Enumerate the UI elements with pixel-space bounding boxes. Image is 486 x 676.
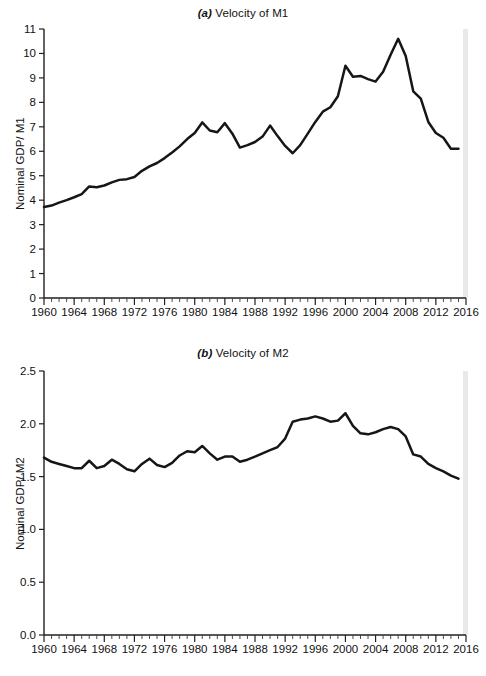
y-axis-tick-label: 2.5 bbox=[20, 365, 36, 377]
y-axis-tick-label: 9 bbox=[30, 72, 36, 84]
x-axis-tick-label: 1992 bbox=[272, 306, 298, 318]
y-axis-tick-label: 11 bbox=[24, 23, 36, 35]
x-axis-tick-label: 1984 bbox=[212, 643, 238, 655]
x-axis-tick-label: 2016 bbox=[453, 643, 479, 655]
x-axis-tick-label: 1988 bbox=[242, 643, 268, 655]
x-axis-tick-label: 1992 bbox=[272, 643, 298, 655]
x-axis-tick-label: 1972 bbox=[122, 306, 148, 318]
y-axis-tick-label: 7 bbox=[30, 121, 36, 133]
y-axis-tick-label: 1.0 bbox=[20, 523, 36, 535]
x-axis-tick-label: 1996 bbox=[302, 306, 328, 318]
y-axis-tick-label: 5 bbox=[30, 170, 36, 182]
x-axis-tick-label: 1968 bbox=[91, 643, 117, 655]
x-axis-tick-label: 1972 bbox=[122, 643, 148, 655]
plot-right-edge-shading bbox=[463, 371, 468, 635]
y-axis-tick-label: 0.0 bbox=[20, 629, 36, 641]
x-axis-tick-label: 1964 bbox=[61, 306, 87, 318]
data-series-line bbox=[44, 39, 458, 207]
chart-a-plot: 0123456789101119601964196819721976198019… bbox=[0, 0, 486, 340]
y-axis-tick-label: 1 bbox=[30, 268, 36, 280]
x-axis-tick-label: 2012 bbox=[423, 306, 449, 318]
y-axis-tick-label: 6 bbox=[30, 145, 36, 157]
x-axis-tick-label: 2008 bbox=[393, 643, 419, 655]
x-axis-tick-label: 2000 bbox=[333, 306, 359, 318]
x-axis-tick-label: 1964 bbox=[61, 643, 87, 655]
data-series-line bbox=[44, 413, 458, 478]
x-axis-tick-label: 1960 bbox=[31, 306, 57, 318]
x-axis-tick-label: 1960 bbox=[31, 643, 57, 655]
x-axis-tick-label: 2016 bbox=[453, 306, 479, 318]
y-axis-tick-label: 8 bbox=[30, 96, 36, 108]
x-axis-tick-label: 2000 bbox=[333, 643, 359, 655]
y-axis-tick-label: 3 bbox=[30, 219, 36, 231]
chart-panel-velocity-m2: (b) Velocity of M2 Nominal GDP/ M2 0.00.… bbox=[0, 340, 486, 676]
x-axis-tick-label: 1988 bbox=[242, 306, 268, 318]
x-axis-tick-label: 1996 bbox=[302, 643, 328, 655]
y-axis-tick-label: 0 bbox=[30, 292, 36, 304]
x-axis-tick-label: 2012 bbox=[423, 643, 449, 655]
y-axis-tick-label: 4 bbox=[30, 194, 37, 206]
x-axis-tick-label: 1980 bbox=[182, 306, 208, 318]
y-axis-tick-label: 1.5 bbox=[20, 471, 36, 483]
x-axis-tick-label: 2004 bbox=[363, 306, 389, 318]
chart-panel-velocity-m1: (a) Velocity of M1 Nominal GDP/ M1 01234… bbox=[0, 0, 486, 340]
y-axis-tick-label: 2 bbox=[30, 243, 36, 255]
plot-right-edge-shading bbox=[463, 29, 468, 298]
chart-b-plot: 0.00.51.01.52.02.51960196419681972197619… bbox=[0, 340, 486, 676]
y-axis-tick-label: 0.5 bbox=[20, 576, 36, 588]
y-axis-tick-label: 2.0 bbox=[20, 418, 36, 430]
x-axis-tick-label: 1984 bbox=[212, 306, 238, 318]
x-axis-tick-label: 2004 bbox=[363, 643, 389, 655]
y-axis-tick-label: 10 bbox=[23, 47, 36, 59]
x-axis-tick-label: 1976 bbox=[152, 306, 178, 318]
x-axis-tick-label: 1968 bbox=[91, 306, 117, 318]
x-axis-tick-label: 1976 bbox=[152, 643, 178, 655]
x-axis-tick-label: 2008 bbox=[393, 306, 419, 318]
x-axis-tick-label: 1980 bbox=[182, 643, 208, 655]
